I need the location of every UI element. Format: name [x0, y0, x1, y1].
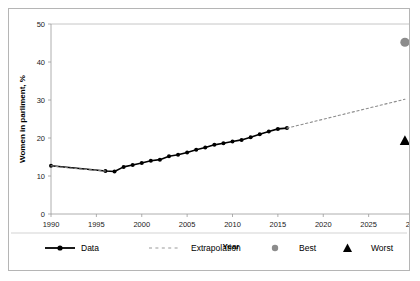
series-marker [249, 135, 253, 139]
x-tick-label: 2010 [224, 220, 241, 229]
series-marker [194, 148, 198, 152]
series-marker [131, 163, 135, 167]
series-marker [258, 132, 262, 136]
plot-frame [51, 24, 409, 214]
series-marker [231, 139, 235, 143]
series-marker [203, 146, 207, 150]
series-marker [176, 153, 180, 157]
series-marker [212, 143, 216, 147]
y-tick-label: 30 [37, 96, 45, 105]
x-tick-label: 2015 [270, 220, 287, 229]
legend-diamond-icon [57, 245, 62, 250]
x-tick-label: 1995 [88, 220, 105, 229]
legend-item-best[interactable]: Best [272, 243, 317, 253]
y-tick-label: 50 [37, 20, 45, 29]
point-marker-best [400, 38, 409, 47]
chart-container: 01020304050 1990199520002005201020152020… [8, 8, 410, 271]
series-marker [167, 154, 171, 158]
series-marker [276, 127, 280, 131]
y-tick-label: 20 [37, 134, 45, 143]
series-marker [267, 130, 271, 134]
data-series-layer [49, 99, 405, 173]
y-axis: 01020304050 [37, 20, 51, 219]
legend-circle-icon [272, 245, 278, 251]
series-line-data [51, 128, 287, 171]
series-line-extrapolation [287, 99, 405, 128]
legend-item-extrapolation[interactable]: Extrapolation [149, 243, 241, 253]
x-tick-label: 2030 [406, 220, 409, 229]
x-tick-label: 2000 [133, 220, 150, 229]
series-marker [185, 150, 189, 154]
series-marker [113, 169, 117, 173]
x-tick-label: 2020 [315, 220, 332, 229]
y-tick-label: 40 [37, 58, 45, 67]
x-tick-label: 2005 [179, 220, 196, 229]
legend-label: Extrapolation [191, 243, 241, 253]
y-axis-title: Women in parliment, % [18, 75, 27, 163]
y-tick-label: 10 [37, 172, 45, 181]
legend-label: Worst [371, 243, 394, 253]
series-marker [158, 158, 162, 162]
legend-item-worst[interactable]: Worst [343, 243, 394, 253]
series-marker [240, 138, 244, 142]
legend-triangle-icon [343, 244, 352, 253]
legend-label: Best [299, 243, 317, 253]
women-in-parliament-line-chart: 01020304050 1990199520002005201020152020… [9, 9, 409, 270]
legend-item-data[interactable]: Data [45, 243, 99, 253]
series-marker [221, 141, 225, 145]
x-axis: 199019952000200520102015202020252030 [43, 214, 409, 229]
series-marker [122, 165, 126, 169]
special-points-layer [400, 38, 409, 145]
x-tick-label: 2025 [360, 220, 377, 229]
series-marker [149, 159, 153, 163]
point-marker-worst [400, 135, 409, 145]
y-tick-label: 0 [41, 210, 45, 219]
chart-legend: DataExtrapolationBestWorst [45, 243, 394, 253]
series-marker [140, 161, 144, 165]
legend-label: Data [81, 243, 99, 253]
x-tick-label: 1990 [43, 220, 60, 229]
